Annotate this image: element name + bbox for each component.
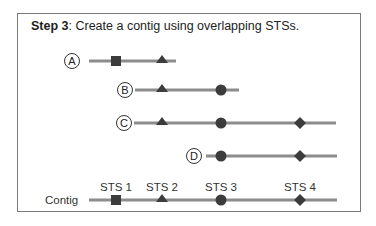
diamond-marker-icon [294,150,306,162]
triangle-marker-icon [156,84,168,92]
square-marker-icon [111,56,121,66]
clone-label: D [190,150,198,162]
triangle-marker-icon [156,55,168,63]
circle-marker-icon [216,118,227,129]
clone-d: D [187,149,338,164]
circle-marker-icon [216,85,227,96]
clone-label: C [120,117,128,129]
sts-label: STS 4 [284,181,317,193]
contig-diagram: A B C D Contig STS 1 STS 2 STS 3 STS 4 [0,0,376,226]
clone-label: A [68,55,76,67]
clone-b: B [118,83,240,98]
diamond-marker-icon [294,194,306,206]
clone-label: B [121,84,128,96]
contig-label: Contig [45,194,78,206]
sts-label: STS 3 [205,181,237,193]
diamond-marker-icon [294,117,306,129]
clone-a: A [65,54,177,69]
square-marker-icon [111,195,121,205]
contig: Contig STS 1 STS 2 STS 3 STS 4 [45,181,337,206]
circle-marker-icon [216,151,227,162]
circle-marker-icon [216,195,227,206]
sts-label: STS 1 [100,181,132,193]
sts-label: STS 2 [146,181,178,193]
clone-c: C [117,116,337,131]
triangle-marker-icon [156,194,168,202]
triangle-marker-icon [156,117,168,125]
